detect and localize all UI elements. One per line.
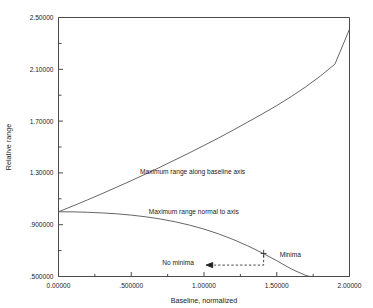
y-axis-ticks: [59, 18, 64, 277]
x-tick-label: 0.00000: [47, 282, 71, 289]
y-tick-label: .500000: [30, 273, 54, 280]
lower-curve-label: Maximum range normal to axis: [149, 208, 240, 216]
y-tick-label: 2.50000: [30, 14, 54, 21]
x-tick-label: 2.00000: [338, 282, 362, 289]
y-axis-tick-labels: 2.500002.100001.700001.30000.900000.5000…: [30, 14, 54, 280]
upper-curve: [59, 29, 350, 212]
relative-range-vs-baseline-chart: 0.00000.5000001.000001.500002.00000 2.50…: [0, 0, 373, 308]
plot-frame-border: [59, 18, 350, 277]
y-tick-label: 2.10000: [30, 66, 54, 73]
x-tick-label: .500000: [119, 282, 143, 289]
data-curves: [59, 29, 350, 276]
upper-curve-label: Maximum range along baseline axis: [140, 168, 246, 176]
x-tick-label: 1.50000: [265, 282, 289, 289]
x-axis-tick-labels: 0.00000.5000001.000001.500002.00000: [47, 282, 362, 289]
minima-label: Minima: [280, 251, 302, 258]
arrow-left-icon: [206, 263, 213, 268]
x-tick-label: 1.00000: [192, 282, 216, 289]
y-axis-title: Relative range: [4, 124, 13, 170]
no-minima-callout: [206, 250, 266, 268]
chart-page: 0.00000.5000001.000001.500002.00000 2.50…: [0, 0, 373, 308]
y-tick-label: .900000: [30, 221, 54, 228]
x-axis-title: Baseline, normalized: [171, 296, 238, 305]
plot-frame: [59, 18, 350, 277]
y-tick-label: 1.70000: [30, 118, 54, 125]
minima-boundary-dashed-leader: [214, 255, 263, 265]
plus-marker-icon: [261, 250, 267, 257]
y-tick-label: 1.30000: [30, 169, 54, 176]
no-minima-label: No minima: [162, 259, 194, 266]
chart-annotations: Maximum range along baseline axisMaximum…: [140, 168, 301, 267]
lower-curve: [59, 212, 311, 277]
